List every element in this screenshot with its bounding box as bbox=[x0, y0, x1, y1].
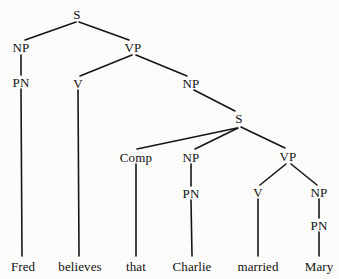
tree-node-pn-mary: PN bbox=[310, 219, 327, 232]
tree-node-comp-that: Comp bbox=[120, 151, 153, 164]
tree-edge-s-root-to-np-subject bbox=[25, 22, 76, 40]
tree-edge-vp-embedded-to-v-married bbox=[260, 164, 286, 185]
tree-node-np-subject: NP bbox=[12, 41, 29, 54]
tree-node-s-root: S bbox=[73, 8, 80, 21]
tree-node-v-married: V bbox=[253, 186, 263, 199]
tree-edge-pn-charlie-to-leaf-charlie bbox=[191, 200, 192, 256]
tree-node-pn-charlie: PN bbox=[182, 187, 199, 200]
tree-node-np-mary: NP bbox=[310, 186, 327, 199]
tree-leaf-leaf-charlie: Charlie bbox=[173, 260, 212, 273]
tree-node-np-object: NP bbox=[182, 77, 199, 90]
tree-node-v-believes: V bbox=[73, 77, 83, 90]
tree-node-np-embedded: NP bbox=[182, 151, 199, 164]
tree-edge-s-embedded-to-np-embedded bbox=[195, 128, 238, 149]
syntax-tree-figure: SNPVPPNVNPSCompNPVPPNVNPPN Fredbelievest… bbox=[0, 0, 339, 279]
tree-edge-s-embedded-to-vp-embedded bbox=[241, 127, 285, 148]
tree-edge-s-embedded-to-comp-that bbox=[137, 128, 237, 149]
tree-edge-np-object-to-s-embedded bbox=[194, 90, 235, 111]
tree-node-vp-matrix: VP bbox=[124, 41, 141, 54]
tree-edge-pn-fred-to-leaf-fred bbox=[21, 89, 22, 256]
tree-edge-v-believes-to-leaf-believes bbox=[78, 90, 79, 256]
tree-edges-layer bbox=[0, 0, 339, 279]
tree-leaf-leaf-mary: Mary bbox=[305, 260, 334, 273]
tree-leaf-leaf-that: that bbox=[126, 260, 146, 273]
tree-edge-vp-matrix-to-np-object bbox=[136, 55, 187, 76]
tree-node-pn-fred: PN bbox=[12, 76, 29, 89]
tree-edge-vp-matrix-to-v-believes bbox=[80, 55, 132, 76]
tree-leaf-leaf-fred: Fred bbox=[11, 260, 35, 273]
tree-node-vp-embedded: VP bbox=[279, 150, 296, 163]
tree-leaf-leaf-married: married bbox=[237, 260, 278, 273]
tree-edge-s-root-to-vp-matrix bbox=[79, 22, 129, 40]
tree-node-s-embedded: S bbox=[235, 112, 242, 125]
tree-leaf-leaf-believes: believes bbox=[58, 260, 101, 273]
tree-edge-vp-embedded-to-np-mary bbox=[291, 164, 317, 185]
